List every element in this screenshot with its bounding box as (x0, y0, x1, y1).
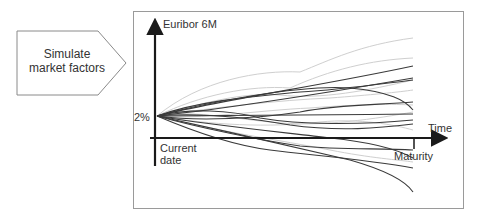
origin-value-label: 2% (134, 111, 150, 123)
y-axis-label: Euribor 6M (163, 18, 217, 30)
x-axis-label: Time (428, 122, 452, 134)
current-date-label: Current date (160, 142, 197, 166)
maturity-label: Maturity (394, 150, 433, 162)
dark-simulated-paths (157, 66, 413, 192)
simulation-paths-chart (0, 0, 480, 218)
